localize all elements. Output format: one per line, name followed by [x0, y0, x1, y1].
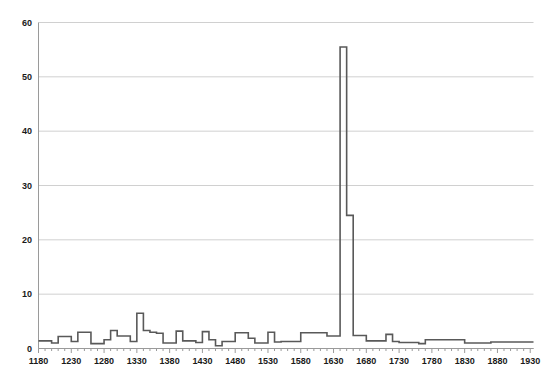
y-tick-label-10: 10 [6, 289, 32, 299]
y-tick-label-0: 0 [6, 344, 32, 354]
x-tick-label-1580: 1580 [291, 356, 311, 366]
x-tick-label-1330: 1330 [127, 356, 147, 366]
x-tick-label-1380: 1380 [160, 356, 180, 366]
y-tick-label-50: 50 [6, 72, 32, 82]
x-tick-label-1880: 1880 [487, 356, 507, 366]
x-tick-label-1430: 1430 [192, 356, 212, 366]
y-tick-label-60: 60 [6, 18, 32, 28]
series-line [39, 47, 534, 346]
chart-svg [0, 0, 555, 392]
x-minor-ticks-group [39, 349, 531, 354]
x-tick-label-1630: 1630 [324, 356, 344, 366]
gridlines-group [39, 23, 534, 349]
x-tick-label-1230: 1230 [61, 356, 81, 366]
y-tick-label-20: 20 [6, 235, 32, 245]
x-tick-label-1780: 1780 [422, 356, 442, 366]
x-tick-label-1180: 1180 [29, 356, 49, 366]
x-tick-label-1830: 1830 [455, 356, 475, 366]
x-tick-label-1680: 1680 [356, 356, 376, 366]
x-tick-label-1480: 1480 [225, 356, 245, 366]
x-tick-label-1280: 1280 [94, 356, 114, 366]
y-tick-label-40: 40 [6, 126, 32, 136]
x-tick-label-1930: 1930 [520, 356, 540, 366]
x-tick-label-1730: 1730 [389, 356, 409, 366]
y-tick-label-30: 30 [6, 181, 32, 191]
chart-container: 0102030405060 11801230128013301380143014… [0, 0, 555, 392]
data-series-group [39, 47, 534, 346]
plot-area: 0102030405060 11801230128013301380143014… [0, 0, 555, 392]
x-tick-label-1530: 1530 [258, 356, 278, 366]
